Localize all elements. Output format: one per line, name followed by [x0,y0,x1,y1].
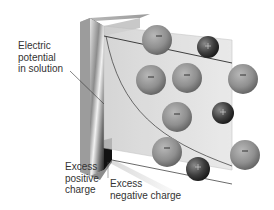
label-line: Electric [18,40,63,52]
label-excess-positive-charge: Excess positive charge [65,161,99,196]
anion-3 [172,63,202,93]
anion-1 [142,25,172,55]
anion-2 [136,65,166,95]
label-electric-potential: Electric potential in solution [18,40,63,75]
anion-4 [228,64,258,94]
anion-5 [162,102,192,132]
label-line: in solution [18,63,63,75]
label-line: positive [65,173,99,185]
cation-3 [186,157,210,181]
label-line: charge [65,184,99,196]
double-layer-diagram: Electric potential in solution Excess po… [0,0,274,210]
cation-1 [197,36,219,58]
anion-7 [230,140,260,170]
label-excess-negative-charge: Excess negative charge [110,178,181,201]
label-line: Excess [110,178,181,190]
cation-2 [212,102,234,124]
label-line: Excess [65,161,99,173]
label-line: negative charge [110,190,181,202]
label-line: potential [18,52,63,64]
anion-6 [152,137,182,167]
